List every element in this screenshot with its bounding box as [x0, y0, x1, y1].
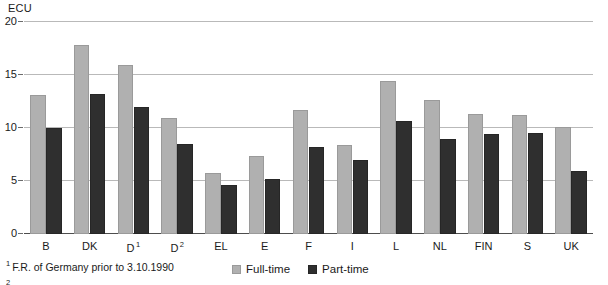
y-tick-mark	[18, 180, 23, 181]
bar	[396, 121, 412, 234]
bar-group	[24, 22, 68, 234]
category-label: D2	[170, 240, 184, 254]
bar	[90, 94, 106, 234]
category-label: E	[261, 240, 268, 252]
y-tick-mark	[18, 233, 23, 234]
category-label: S	[524, 240, 531, 252]
category-label: B	[42, 240, 49, 252]
category-label-superscript: 2	[180, 240, 184, 249]
legend-label: Part-time	[322, 263, 369, 275]
bar	[205, 173, 221, 234]
bar	[353, 160, 369, 234]
category-label: D1	[127, 240, 141, 254]
bar-group	[549, 22, 593, 234]
bar-group	[462, 22, 506, 234]
footnote-1-marker: 1	[6, 259, 10, 268]
bar	[74, 45, 90, 234]
footnote-1: 1F.R. of Germany prior to 3.10.1990	[6, 259, 174, 273]
bar-series-container	[24, 22, 593, 234]
category-label: EL	[214, 240, 227, 252]
bar-group	[287, 22, 331, 234]
y-tick-mark	[18, 74, 23, 75]
legend-label: Full-time	[246, 263, 290, 275]
category-label: FIN	[475, 240, 493, 252]
chart-figure: ECU 05101520 BDKD1D2ELEFILNLFINSUK 1F.R.…	[0, 0, 608, 285]
bar	[555, 127, 571, 234]
chart-legend: Full-timePart-time	[232, 263, 369, 275]
y-tick-label: 15	[5, 69, 17, 80]
category-label: L	[393, 240, 399, 252]
bar	[484, 134, 500, 234]
bar	[528, 133, 544, 234]
footnote-1-text: F.R. of Germany prior to 3.10.1990	[12, 261, 174, 273]
bar	[309, 147, 325, 234]
bar-group	[418, 22, 462, 234]
category-label: NL	[433, 240, 447, 252]
y-tick-label: 0	[11, 228, 17, 239]
bar	[337, 145, 353, 234]
category-label: DK	[82, 240, 97, 252]
bar	[177, 144, 193, 234]
bar	[161, 118, 177, 234]
legend-swatch-full	[232, 265, 241, 274]
bar	[249, 156, 265, 234]
bar	[440, 139, 456, 234]
bar	[46, 128, 62, 234]
bar-group	[330, 22, 374, 234]
bar-group	[199, 22, 243, 234]
bar	[571, 171, 587, 234]
y-tick-label: 10	[5, 122, 17, 133]
bar	[380, 81, 396, 234]
footnote-2-marker: 2	[6, 278, 10, 285]
bar	[118, 65, 134, 234]
footnote-2: 2	[6, 278, 12, 285]
bar	[265, 179, 281, 234]
bar	[134, 107, 150, 234]
bar	[512, 115, 528, 234]
y-tick-mark	[18, 127, 23, 128]
unit-label: ECU	[8, 2, 32, 14]
legend-item: Part-time	[308, 263, 369, 275]
bar	[221, 185, 237, 234]
bar-group	[505, 22, 549, 234]
bar-group	[374, 22, 418, 234]
legend-swatch-part	[308, 265, 317, 274]
bar	[424, 100, 440, 234]
bar	[293, 110, 309, 234]
y-tick-mark	[18, 21, 23, 22]
legend-item: Full-time	[232, 263, 290, 275]
bar-group	[155, 22, 199, 234]
category-label: I	[351, 240, 354, 252]
bar-group	[112, 22, 156, 234]
category-label-superscript: 1	[136, 240, 140, 249]
bar	[468, 114, 484, 234]
bar-group	[243, 22, 287, 234]
y-tick-label: 5	[11, 175, 17, 186]
bar-group	[68, 22, 112, 234]
category-label: F	[305, 240, 312, 252]
plot-area: 05101520	[24, 22, 593, 234]
bar	[30, 95, 46, 234]
y-tick-label: 20	[5, 16, 17, 27]
category-label: UK	[563, 240, 578, 252]
